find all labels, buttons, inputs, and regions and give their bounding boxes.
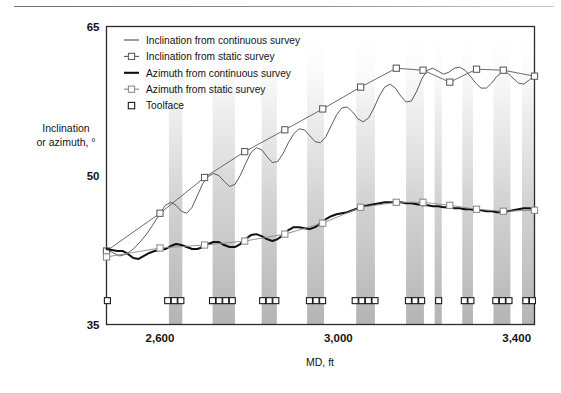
y-axis-title-line2: or azimuth, ° bbox=[36, 136, 95, 148]
x-axis-tick-labels: 2,6003,0003,400 bbox=[146, 332, 531, 344]
data-point-marker bbox=[201, 242, 207, 248]
legend-item[interactable]: Azimuth from continuous survey bbox=[124, 68, 292, 79]
toolface-marker bbox=[499, 298, 505, 304]
data-point-marker bbox=[320, 220, 326, 226]
data-point-marker bbox=[242, 238, 248, 244]
toolface-marker bbox=[419, 298, 425, 304]
data-point-marker bbox=[473, 206, 479, 212]
legend-item-label: Toolface bbox=[146, 100, 184, 111]
toolface-marker bbox=[493, 298, 499, 304]
data-point-marker bbox=[393, 199, 399, 205]
toolface-marker bbox=[171, 298, 177, 304]
toolface-marker bbox=[461, 298, 467, 304]
toolface-marker bbox=[506, 298, 512, 304]
toolface-marker bbox=[266, 298, 272, 304]
y-axis-tick-labels: 355065 bbox=[87, 21, 100, 331]
data-point-marker bbox=[500, 67, 506, 73]
toolface-marker bbox=[436, 298, 442, 304]
shaded-band bbox=[307, 27, 324, 325]
toolface-marker bbox=[273, 298, 279, 304]
toolface-markers-group bbox=[104, 298, 535, 304]
toolface-marker bbox=[468, 298, 474, 304]
toolface-marker bbox=[529, 298, 535, 304]
legend-item[interactable]: Inclination from continuous survey bbox=[124, 35, 301, 46]
toolface-marker bbox=[365, 298, 371, 304]
legend-item-label: Inclination from continuous survey bbox=[146, 35, 301, 46]
data-point-marker bbox=[393, 65, 399, 71]
toolface-marker bbox=[405, 298, 411, 304]
toolface-marker bbox=[313, 298, 319, 304]
shaded-band bbox=[356, 27, 375, 325]
legend-square-swatch bbox=[128, 53, 134, 59]
toolface-marker bbox=[165, 298, 171, 304]
data-point-marker bbox=[157, 245, 163, 251]
data-point-marker bbox=[420, 67, 426, 73]
toolface-marker bbox=[223, 298, 229, 304]
data-point-marker bbox=[282, 231, 288, 237]
legend-square-swatch bbox=[128, 86, 134, 92]
y-axis-title-line1: Inclination bbox=[42, 122, 89, 134]
toolface-marker bbox=[229, 298, 235, 304]
data-point-marker bbox=[282, 127, 288, 133]
toolface-marker bbox=[352, 298, 358, 304]
shaded-band bbox=[462, 27, 473, 325]
shaded-band bbox=[522, 27, 534, 325]
data-point-marker bbox=[157, 210, 163, 216]
top-divider-rule bbox=[14, 6, 554, 7]
y-tick-label: 65 bbox=[87, 21, 100, 33]
toolface-marker bbox=[320, 298, 326, 304]
data-point-marker bbox=[320, 106, 326, 112]
data-point-marker bbox=[447, 79, 453, 85]
x-tick-label: 3,400 bbox=[502, 332, 531, 344]
figure-container: 355065 2,6003,0003,400 MD, ft Inclinatio… bbox=[0, 0, 561, 393]
toolface-marker bbox=[210, 298, 216, 304]
data-point-marker bbox=[103, 254, 109, 260]
legend-item[interactable]: Azimuth from static survey bbox=[124, 84, 266, 95]
data-point-marker bbox=[500, 208, 506, 214]
legend-item[interactable]: Inclination from static survey bbox=[124, 51, 275, 62]
toolface-marker bbox=[412, 298, 418, 304]
chart-canvas: 355065 2,6003,0003,400 MD, ft Inclinatio… bbox=[0, 0, 561, 393]
toolface-marker bbox=[216, 298, 222, 304]
x-tick-label: 3,000 bbox=[324, 332, 353, 344]
legend-item-label: Azimuth from continuous survey bbox=[146, 68, 292, 79]
y-tick-label: 50 bbox=[87, 170, 100, 182]
data-point-marker bbox=[531, 73, 537, 79]
legend-item-label: Azimuth from static survey bbox=[146, 84, 266, 95]
legend-square-swatch bbox=[128, 102, 134, 108]
toolface-marker bbox=[104, 298, 110, 304]
data-point-marker bbox=[447, 202, 453, 208]
toolface-marker bbox=[372, 298, 378, 304]
data-point-marker bbox=[531, 207, 537, 213]
x-tick-label: 2,600 bbox=[146, 332, 175, 344]
x-axis-title: MD, ft bbox=[306, 356, 334, 368]
data-point-marker bbox=[420, 199, 426, 205]
data-point-marker bbox=[242, 149, 248, 155]
data-point-marker bbox=[358, 204, 364, 210]
toolface-marker bbox=[306, 298, 312, 304]
data-point-marker bbox=[473, 66, 479, 72]
toolface-marker bbox=[178, 298, 184, 304]
data-point-marker bbox=[358, 84, 364, 90]
toolface-marker bbox=[260, 298, 266, 304]
data-point-marker bbox=[201, 174, 207, 180]
toolface-marker bbox=[523, 298, 529, 304]
y-tick-label: 35 bbox=[87, 319, 100, 331]
toolface-marker bbox=[359, 298, 365, 304]
legend-item-label: Inclination from static survey bbox=[146, 51, 275, 62]
legend-item[interactable]: Toolface bbox=[128, 100, 184, 111]
